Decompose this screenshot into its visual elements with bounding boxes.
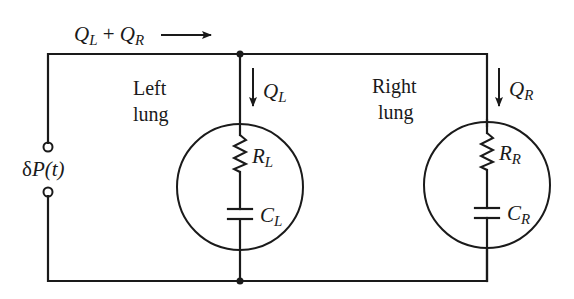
top-junction-dot	[237, 51, 244, 58]
bottom-junction-dot	[237, 278, 244, 285]
right-resistor-label: RR	[498, 141, 521, 167]
total-flow-label: QL + QR	[74, 22, 144, 48]
right-lung-title-line1: Right	[372, 75, 417, 98]
circuit-diagram: QL + QR δP(t) Left lung Right lung QL QR…	[0, 0, 574, 299]
left-lung-title-line1: Left	[133, 77, 167, 99]
left-resistor-label: RL	[251, 144, 273, 170]
right-resistor-icon	[481, 133, 493, 170]
left-capacitor-icon	[228, 209, 252, 219]
source-label: δP(t)	[22, 157, 65, 181]
left-lung-title-line2: lung	[133, 103, 169, 126]
left-flow-label: QL	[263, 79, 287, 105]
left-resistor-icon	[234, 135, 246, 172]
right-capacitor-icon	[475, 208, 499, 218]
right-lung-title-line2: lung	[378, 101, 414, 124]
right-flow-label: QR	[509, 77, 533, 103]
left-capacitor-label: CL	[260, 203, 282, 229]
right-capacitor-label: CR	[507, 201, 530, 227]
